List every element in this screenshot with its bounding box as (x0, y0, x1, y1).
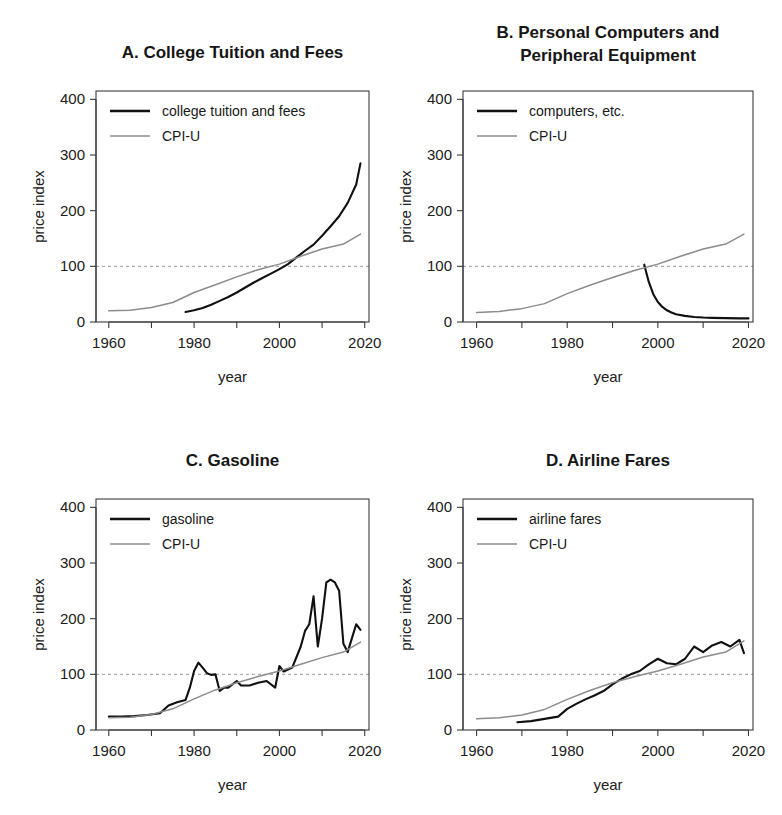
x-tick-label: 2000 (641, 742, 674, 759)
y-tick-label: 300 (60, 146, 85, 163)
legend-label: CPI-U (162, 536, 200, 552)
x-tick-label: 1980 (177, 334, 210, 351)
series-line-cpi (477, 234, 744, 312)
chart-panel-c: C. Gasoline0100200300400price index19601… (0, 408, 391, 815)
y-tick-label: 200 (60, 202, 85, 219)
legend-label: CPI-U (162, 128, 200, 144)
x-tick-label: 2020 (348, 742, 381, 759)
plot-frame (96, 499, 369, 730)
panel-title: C. Gasoline (186, 451, 280, 470)
y-tick-label: 100 (60, 257, 85, 274)
x-tick-label: 2020 (732, 742, 765, 759)
y-axis-title: price index (397, 170, 414, 243)
y-tick-label: 300 (427, 146, 452, 163)
legend-label: gasoline (162, 511, 214, 527)
x-tick-label: 2020 (348, 334, 381, 351)
y-tick-label: 300 (60, 554, 85, 571)
x-axis-title: year (218, 368, 247, 385)
x-tick-label: 2000 (263, 334, 296, 351)
y-tick-label: 100 (427, 257, 452, 274)
y-tick-label: 0 (77, 313, 85, 330)
plot-frame (96, 91, 369, 322)
y-tick-label: 300 (427, 554, 452, 571)
y-tick-label: 200 (427, 202, 452, 219)
x-axis-title: year (593, 368, 622, 385)
series-line-cpi (109, 642, 361, 718)
y-axis-title: price index (30, 578, 47, 651)
legend-label: computers, etc. (529, 103, 625, 119)
y-tick-label: 400 (427, 90, 452, 107)
x-axis-title: year (218, 776, 247, 793)
panel-title: B. Personal Computers and (497, 23, 720, 42)
figure-panel-grid: A. College Tuition and Fees0100200300400… (0, 0, 782, 815)
y-axis-title: price index (30, 170, 47, 243)
y-tick-label: 0 (77, 721, 85, 738)
y-tick-label: 200 (427, 610, 452, 627)
chart-panel-a: A. College Tuition and Fees0100200300400… (0, 0, 391, 408)
y-tick-label: 400 (60, 498, 85, 515)
x-axis-title: year (593, 776, 622, 793)
chart-panel-b: B. Personal Computers andPeripheral Equi… (391, 0, 782, 408)
series-line-primary (109, 580, 361, 717)
chart-panel-d: D. Airline Fares0100200300400price index… (391, 408, 782, 815)
series-line-cpi (109, 234, 361, 311)
series-line-primary (644, 265, 748, 319)
x-tick-label: 1960 (460, 742, 493, 759)
panel-title: A. College Tuition and Fees (122, 43, 344, 62)
y-tick-label: 100 (427, 665, 452, 682)
x-tick-label: 2020 (732, 334, 765, 351)
legend-label: college tuition and fees (162, 103, 305, 119)
y-tick-label: 0 (444, 721, 452, 738)
x-tick-label: 1980 (177, 742, 210, 759)
legend-label: airline fares (529, 511, 601, 527)
x-tick-label: 2000 (641, 334, 674, 351)
y-tick-label: 0 (444, 313, 452, 330)
plot-frame (463, 499, 753, 730)
y-axis-title: price index (397, 578, 414, 651)
x-tick-label: 1960 (460, 334, 493, 351)
legend-label: CPI-U (529, 128, 567, 144)
x-tick-label: 2000 (263, 742, 296, 759)
x-tick-label: 1980 (551, 742, 584, 759)
y-tick-label: 400 (60, 90, 85, 107)
y-tick-label: 200 (60, 610, 85, 627)
panel-title: Peripheral Equipment (520, 46, 696, 65)
y-tick-label: 100 (60, 665, 85, 682)
x-tick-label: 1960 (92, 334, 125, 351)
x-tick-label: 1960 (92, 742, 125, 759)
series-line-primary (186, 163, 361, 312)
panel-title: D. Airline Fares (546, 451, 670, 470)
plot-frame (463, 91, 753, 322)
series-line-primary (517, 640, 744, 722)
x-tick-label: 1980 (551, 334, 584, 351)
legend-label: CPI-U (529, 536, 567, 552)
y-tick-label: 400 (427, 498, 452, 515)
